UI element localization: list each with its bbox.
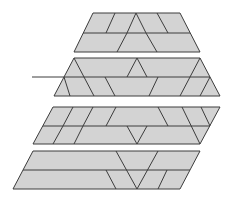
geometric-dissection-diagram xyxy=(0,0,234,201)
figures-group xyxy=(13,13,220,189)
trapezoid-second xyxy=(54,58,220,96)
trapezoid-top xyxy=(74,13,200,52)
parallelogram-bottom xyxy=(13,151,200,189)
parallelogram-third xyxy=(33,107,220,144)
